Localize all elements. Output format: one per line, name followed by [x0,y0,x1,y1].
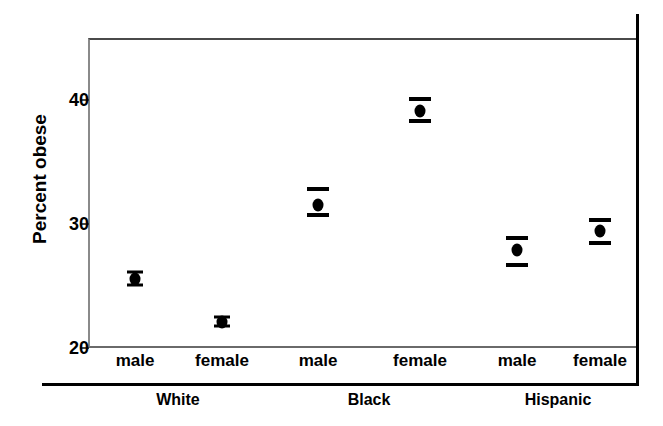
estimate-dot-white-male [130,272,141,285]
y-axis-title: Percent obese [29,79,51,279]
x-label-black-female: female [370,352,470,369]
y-tick-label: 30 [49,215,89,233]
plot-area [88,38,638,348]
ci-lower-cap-hispanic-male [506,263,528,267]
group-label-hispanic: Hispanic [498,392,618,408]
ci-lower-cap-black-female [409,119,431,123]
obesity-chart-figure: Percent obese 203040 malefemalemalefemal… [0,0,663,426]
x-label-white-male: male [85,352,185,369]
x-label-white-female: female [172,352,272,369]
bottom-baseline-rule [42,383,639,386]
ci-upper-cap-hispanic-male [506,236,528,240]
y-tick-label: 20 [49,339,89,357]
estimate-dot-hispanic-male [512,244,523,257]
x-label-hispanic-female: female [550,352,650,369]
y-tick-label: 40 [49,91,89,109]
group-label-white: White [118,392,238,408]
group-label-black: Black [309,392,429,408]
estimate-dot-black-male [313,199,324,212]
estimate-dot-white-female [217,315,228,328]
ci-upper-cap-black-male [307,187,329,191]
ci-lower-cap-hispanic-female [589,241,611,245]
ci-lower-cap-black-male [307,213,329,217]
right-border-rule [636,14,639,386]
estimate-dot-black-female [415,105,426,118]
estimate-dot-hispanic-female [595,225,606,238]
x-label-black-male: male [268,352,368,369]
ci-upper-cap-black-female [409,97,431,101]
ci-upper-cap-hispanic-female [589,218,611,222]
